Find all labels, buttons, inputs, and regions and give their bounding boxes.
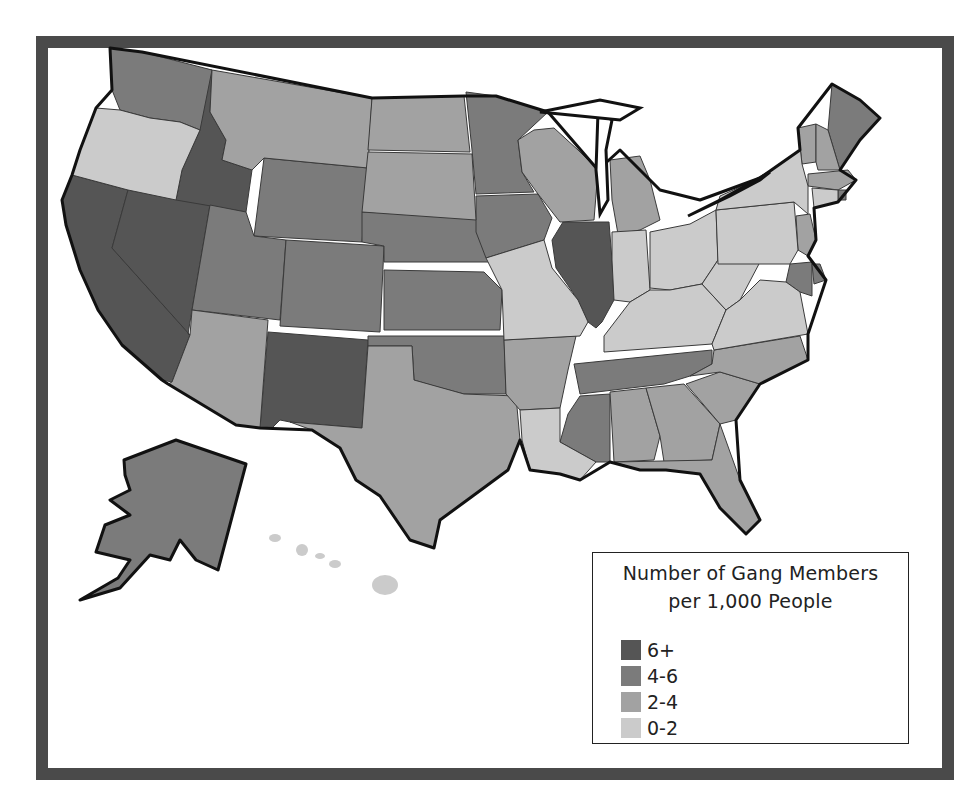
legend-item-0-2: 0-2: [621, 717, 678, 739]
state-wyoming: [254, 158, 368, 242]
state-delaware: [812, 264, 826, 284]
legend-label: 0-2: [647, 717, 678, 739]
legend-box: Number of Gang Members per 1,000 People …: [592, 552, 909, 744]
legend-swatch-4-6: [621, 666, 641, 686]
state-colorado: [280, 240, 384, 332]
legend-title-line2: per 1,000 People: [593, 587, 908, 615]
state-arkansas: [504, 336, 576, 410]
legend-swatch-0-2: [621, 718, 641, 738]
legend-item-2-4: 2-4: [621, 691, 678, 713]
state-montana: [210, 70, 372, 170]
state-new-york: [716, 128, 808, 214]
state-new-mexico: [260, 332, 368, 428]
legend-swatch-2-4: [621, 692, 641, 712]
state-michigan: [610, 156, 660, 234]
legend-label: 4-6: [647, 665, 678, 687]
legend-title: Number of Gang Members per 1,000 People: [593, 559, 908, 615]
legend-label: 6+: [647, 639, 675, 661]
legend-label: 2-4: [647, 691, 678, 713]
lake-superior: [540, 100, 640, 120]
state-kansas: [384, 270, 502, 330]
legend-swatch-6-plus: [621, 640, 641, 660]
state-pennsylvania: [716, 202, 798, 264]
state-hawaii: [269, 534, 398, 595]
legend-item-6-plus: 6+: [621, 639, 675, 661]
state-new-jersey: [796, 214, 816, 256]
legend-title-line1: Number of Gang Members: [593, 559, 908, 587]
state-north-dakota: [368, 96, 470, 152]
state-south-dakota: [362, 152, 476, 220]
legend-item-4-6: 4-6: [621, 665, 678, 687]
state-indiana: [612, 230, 650, 302]
state-alaska: [80, 440, 246, 600]
lake-michigan: [596, 112, 612, 214]
